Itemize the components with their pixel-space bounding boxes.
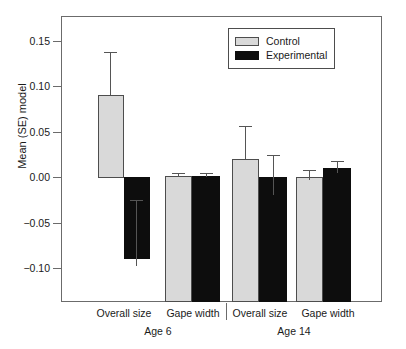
error-bar-control-age6-overall-size [110, 52, 111, 95]
y-tick-mark [53, 268, 61, 269]
bar-chart-figure: Mean (SE) model 0.15 0.10 0.05 0.00 −0.0… [0, 0, 406, 349]
error-bar-experimental-age14-gape-width [337, 161, 338, 173]
error-bar-cap [239, 126, 252, 127]
bar-control-age14-overall-size [232, 159, 259, 302]
bar-control-age6-gape-width [165, 176, 192, 302]
error-bar-cap [130, 200, 143, 201]
legend-item-experimental: Experimental [235, 49, 327, 62]
bar-control-age6-overall-size [98, 95, 124, 178]
bar-experimental-age14-overall-size [259, 177, 287, 302]
error-bar-cap [303, 170, 316, 171]
error-bar-cap [104, 52, 117, 53]
group-label-age14: Age 14 [249, 326, 339, 337]
legend-swatch-control-icon [235, 37, 259, 46]
y-tick-label-0: 0.15 [2, 36, 50, 47]
y-tick-mark [53, 41, 61, 42]
y-tick-mark [53, 177, 61, 178]
y-tick-mark [53, 223, 61, 224]
bar-experimental-age14-gape-width [323, 168, 351, 302]
legend: Control Experimental [228, 28, 335, 69]
y-tick-label-3: 0.00 [2, 172, 50, 183]
error-bar-cap [200, 173, 213, 174]
legend-label-experimental: Experimental [266, 50, 327, 61]
error-bar-cap [331, 161, 344, 162]
y-tick-mark [53, 132, 61, 133]
y-tick-label-5: −0.10 [2, 263, 50, 274]
bar-control-age14-gape-width [296, 177, 323, 302]
y-tick-label-4: −0.05 [2, 218, 50, 229]
y-tick-label-2: 0.05 [2, 127, 50, 138]
error-bar-control-age14-overall-size [245, 126, 246, 159]
legend-item-control: Control [235, 35, 327, 48]
error-bar-experimental-age6-overall-size [136, 200, 137, 266]
group-label-age6: Age 6 [113, 326, 203, 337]
error-bar-control-age14-gape-width [309, 170, 310, 180]
legend-label-control: Control [266, 36, 300, 47]
y-tick-mark [53, 86, 61, 87]
error-bar-experimental-age14-overall-size [273, 155, 274, 195]
bar-experimental-age6-overall-size [124, 177, 150, 259]
error-bar-cap [267, 155, 280, 156]
y-tick-label-1: 0.10 [2, 81, 50, 92]
x-label-age14-gape-width: Gape width [283, 308, 373, 319]
bar-experimental-age6-gape-width [192, 176, 220, 302]
legend-swatch-experimental-icon [235, 51, 259, 60]
error-bar-cap [172, 173, 185, 174]
